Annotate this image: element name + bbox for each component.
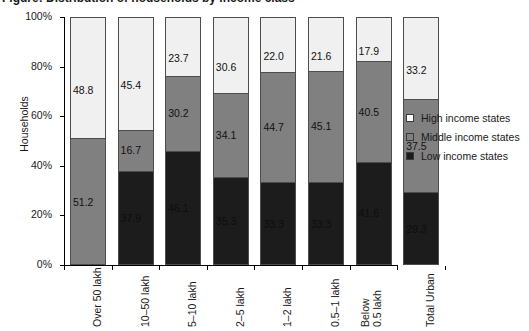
bar-segment-middle-income[interactable]: 30.2 xyxy=(165,76,201,151)
x-tick-mark xyxy=(112,266,113,270)
bar-value-label: 30.2 xyxy=(168,108,188,119)
x-tick-mark xyxy=(159,266,160,270)
x-axis-label: 0.5–1 lakh xyxy=(330,279,342,327)
legend-swatch-low-icon xyxy=(406,152,414,160)
bar-value-label: 45.4 xyxy=(121,80,141,91)
x-axis-label: 10–50 lakh xyxy=(140,276,152,327)
bar-group[interactable]: 22.044.733.3 xyxy=(260,17,296,265)
x-axis-label: 2–5 lakh xyxy=(235,287,247,327)
bar-value-label: 23.7 xyxy=(168,53,188,64)
x-tick-mark xyxy=(64,266,65,270)
y-tick-label: 100% xyxy=(18,11,52,22)
bar-value-label: 41.6 xyxy=(359,208,379,219)
bar-value-label: 33.3 xyxy=(311,219,331,230)
bar-value-label: 48.8 xyxy=(73,85,93,96)
bar-value-label: 34.1 xyxy=(216,130,236,141)
bar-segment-middle-income[interactable]: 34.1 xyxy=(213,93,249,178)
bar-group[interactable]: 30.634.135.3 xyxy=(213,17,249,265)
bar-value-label: 35.3 xyxy=(216,216,236,227)
y-tick-label: 40% xyxy=(18,160,52,171)
x-tick-mark xyxy=(254,266,255,270)
legend-label: High income states xyxy=(421,112,510,124)
page-title: Figure: Distribution of households by in… xyxy=(2,0,295,5)
bar-group[interactable]: 17.940.541.6 xyxy=(356,17,392,265)
legend-label: Low income states xyxy=(421,150,508,162)
y-tick-label: 60% xyxy=(18,110,52,121)
bar-value-label: 44.7 xyxy=(263,122,283,133)
bar-group[interactable]: 23.730.246.1 xyxy=(165,17,201,265)
bar-segment-high-income[interactable]: 33.2 xyxy=(403,17,439,99)
legend-swatch-middle-icon xyxy=(406,133,414,141)
bar-value-label: 29.3 xyxy=(406,224,426,235)
bar-value-label: 33.2 xyxy=(406,65,426,76)
bar-value-label: 30.6 xyxy=(216,62,236,73)
bar-segment-high-income[interactable]: 45.4 xyxy=(118,17,154,130)
stacked-bar-chart: Figure: Distribution of households by in… xyxy=(0,0,529,331)
legend-label: Middle income states xyxy=(421,131,520,143)
x-axis-label: Over 50 lakh xyxy=(92,267,104,327)
bar-segment-middle-income[interactable]: 40.5 xyxy=(356,61,392,161)
bar-value-label: 33.3 xyxy=(263,219,283,230)
bar-value-label: 22.0 xyxy=(263,51,283,62)
bar-segment-middle-income[interactable]: 16.7 xyxy=(118,130,154,171)
bar-group[interactable]: 21.645.133.3 xyxy=(308,17,344,265)
bar-segment-middle-income[interactable]: 44.7 xyxy=(260,72,296,183)
chart-title-clipped: Figure: Distribution of households by in… xyxy=(0,0,529,9)
bar-value-label: 37.9 xyxy=(121,213,141,224)
bar-value-label: 46.1 xyxy=(168,203,188,214)
bar-segment-high-income[interactable]: 23.7 xyxy=(165,17,201,76)
legend-item[interactable]: Low income states xyxy=(406,146,526,165)
bar-value-label: 45.1 xyxy=(311,121,331,132)
legend-item[interactable]: High income states xyxy=(406,108,526,127)
x-tick-mark xyxy=(445,266,446,270)
y-tick-label: 20% xyxy=(18,209,52,220)
bar-segment-low-income[interactable]: 33.3 xyxy=(308,182,344,265)
bar-value-label: 40.5 xyxy=(359,107,379,118)
x-axis-label: 1–2 lakh xyxy=(282,287,294,327)
x-axis-label: Total Urban xyxy=(425,273,437,327)
x-axis-label: 5–10 lakh xyxy=(187,281,199,327)
bar-value-label: 17.9 xyxy=(359,46,379,57)
bar-group[interactable]: 48.851.2 xyxy=(70,17,106,265)
bar-segment-middle-income[interactable]: 45.1 xyxy=(308,71,344,183)
bar-segment-high-income[interactable]: 48.8 xyxy=(70,17,106,138)
bar-segment-high-income[interactable]: 17.9 xyxy=(356,17,392,61)
x-axis-label: Below 0.5 lakh xyxy=(360,290,384,327)
bar-segment-high-income[interactable]: 21.6 xyxy=(308,17,344,71)
legend-swatch-high-icon xyxy=(406,114,414,122)
x-tick-mark xyxy=(397,266,398,270)
y-tick-label: 0% xyxy=(18,259,52,270)
x-tick-mark xyxy=(207,266,208,270)
bar-segment-middle-income[interactable]: 51.2 xyxy=(70,138,106,265)
bar-value-label: 51.2 xyxy=(73,197,93,208)
y-tick-label: 80% xyxy=(18,61,52,72)
bar-value-label: 21.6 xyxy=(311,51,331,62)
legend-item[interactable]: Middle income states xyxy=(406,127,526,146)
bar-segment-low-income[interactable]: 46.1 xyxy=(165,151,201,265)
bar-segment-low-income[interactable]: 33.3 xyxy=(260,182,296,265)
bar-segment-low-income[interactable]: 29.3 xyxy=(403,192,439,265)
y-axis-line xyxy=(64,17,65,265)
x-tick-mark xyxy=(350,266,351,270)
x-tick-mark xyxy=(302,266,303,270)
bar-value-label: 16.7 xyxy=(121,145,141,156)
bar-segment-low-income[interactable]: 35.3 xyxy=(213,177,249,265)
x-axis-line xyxy=(64,265,398,266)
bar-group[interactable]: 45.416.737.9 xyxy=(118,17,154,265)
bar-segment-high-income[interactable]: 22.0 xyxy=(260,17,296,72)
bar-segment-low-income[interactable]: 37.9 xyxy=(118,171,154,265)
bar-segment-high-income[interactable]: 30.6 xyxy=(213,17,249,93)
bar-segment-low-income[interactable]: 41.6 xyxy=(356,162,392,265)
chart-legend: High income statesMiddle income statesLo… xyxy=(406,108,526,165)
